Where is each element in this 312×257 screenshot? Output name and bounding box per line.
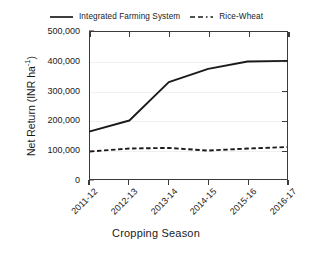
chart-legend: Integrated Farming System Rice-Wheat (0, 8, 312, 26)
y-axis-ticks: 0100,000200,000300,000400,000500,000 (0, 31, 89, 180)
y-tick-label: 200,000 (47, 116, 80, 125)
x-tick-mark-top (129, 32, 130, 37)
data-series-layer (90, 32, 287, 180)
line-rice-wheat (90, 147, 287, 151)
y-tick-label: 400,000 (47, 56, 80, 65)
y-tick-mark-right (282, 61, 287, 62)
legend-entry-rice-wheat: Rice-Wheat (189, 13, 263, 21)
x-tick-mark (208, 180, 209, 185)
y-tick-label: 0 (75, 176, 80, 185)
x-tick-label: 2014-15 (189, 187, 219, 217)
x-tick-label: 2011-12 (70, 187, 99, 216)
x-tick-mark-top (288, 32, 289, 37)
legend-line-solid-icon (49, 13, 74, 21)
x-tick-mark-top (89, 32, 90, 37)
x-tick-mark (248, 180, 249, 185)
x-tick-label: 2013-14 (149, 187, 179, 217)
x-tick-mark (88, 180, 89, 185)
legend-label-rice-wheat: Rice-Wheat (219, 13, 263, 21)
x-tick-mark-top (249, 32, 250, 37)
chart-figure: Integrated Farming System Rice-Wheat Net… (0, 0, 312, 257)
line-integrated-farming-system (90, 61, 287, 132)
x-tick-label: 2016-17 (269, 187, 299, 217)
y-tick-label: 100,000 (47, 146, 80, 155)
y-tick-label: 300,000 (47, 86, 80, 95)
x-tick-mark (287, 180, 288, 185)
x-tick-mark (128, 180, 129, 185)
legend-entry-integrated-farming-system: Integrated Farming System (49, 13, 180, 21)
y-tick-mark-right (282, 121, 287, 122)
y-tick-mark-right (282, 91, 287, 92)
x-tick-mark-top (169, 32, 170, 37)
plot-area (89, 31, 288, 180)
legend-line-dashed-icon (189, 13, 214, 21)
x-tick-label: 2012-13 (109, 187, 139, 217)
x-axis-title: Cropping Season (0, 228, 312, 239)
x-tick-label: 2015-16 (229, 187, 259, 217)
x-tick-mark-top (209, 32, 210, 37)
y-tick-label: 500,000 (47, 27, 80, 36)
x-tick-mark (168, 180, 169, 185)
y-tick-mark-right (282, 151, 287, 152)
legend-label-integrated-farming-system: Integrated Farming System (79, 13, 180, 21)
